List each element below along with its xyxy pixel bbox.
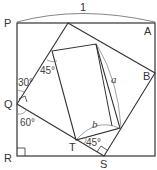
angle-arc-30 [17, 90, 24, 92]
angle-label-45-T: 45° [86, 137, 101, 148]
dimension-arc [17, 14, 155, 23]
point-label-A: A [144, 25, 152, 37]
point-label-S: S [100, 158, 107, 170]
point-label-T: T [69, 141, 76, 153]
angle-label-60: 60° [20, 117, 35, 128]
point-label-B: B [143, 70, 150, 82]
inner-side-line [96, 44, 112, 126]
dimension-label: 1 [80, 1, 86, 13]
angle-arc-45-top [47, 60, 57, 62]
right-angle-R [17, 148, 25, 156]
length-b-label: b [92, 118, 98, 130]
length-a-label: a [111, 73, 117, 85]
inner-rectangle [52, 44, 120, 140]
point-label-P: P [4, 17, 11, 29]
geometry-diagram: 1 a b 30° 60° 45° 45° P A B Q R S T [0, 0, 157, 170]
point-label-Q: Q [4, 98, 13, 110]
angle-label-45-top: 45° [40, 65, 55, 76]
angle-label-30: 30° [18, 77, 33, 88]
point-label-R: R [4, 152, 12, 164]
angle-arc-60 [17, 109, 27, 114]
length-a-arc [97, 45, 121, 127]
